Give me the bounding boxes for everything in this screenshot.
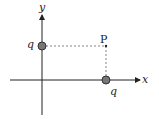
coordinate-diagram: y x P q q	[0, 0, 159, 123]
charge-y-axis	[38, 42, 46, 50]
y-axis-label: y	[38, 1, 46, 14]
charge-x-axis	[102, 76, 110, 84]
point-p-label: P	[100, 33, 108, 46]
charge-y-label: q	[27, 38, 34, 51]
x-axis-label: x	[142, 73, 149, 86]
charge-x-label: q	[110, 85, 117, 98]
